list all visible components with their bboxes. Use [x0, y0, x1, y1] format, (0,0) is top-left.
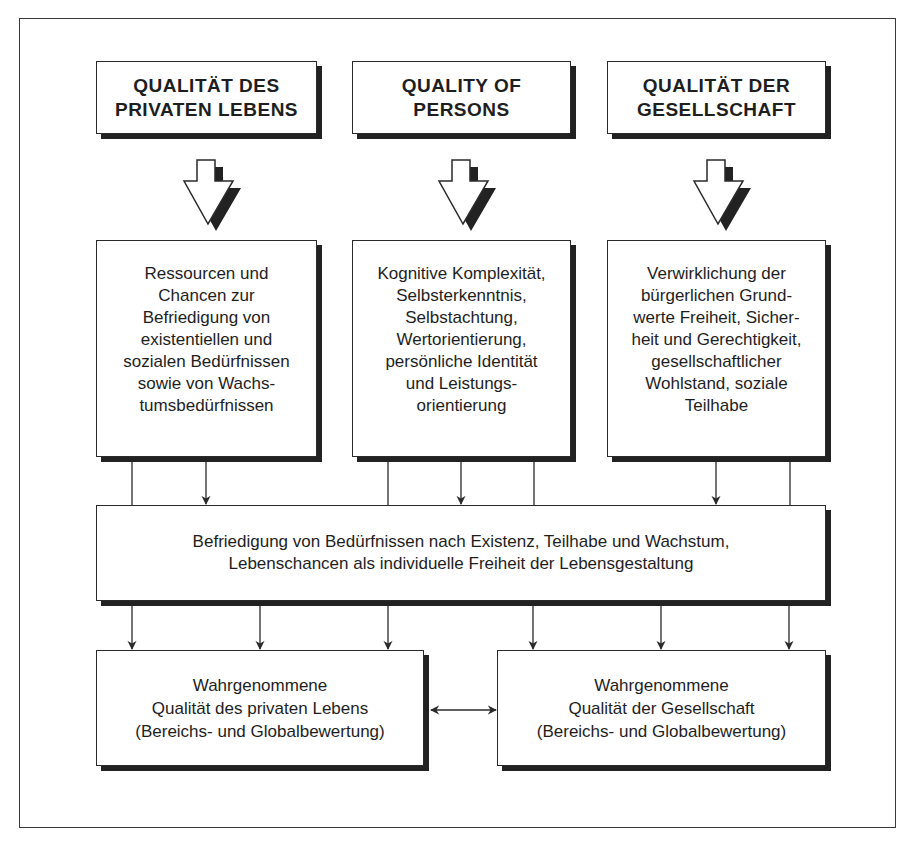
header-label: QUALITY OF PERSONS: [402, 74, 522, 122]
header-box-private-life: QUALITÄT DES PRIVATEN LEBENS: [96, 61, 317, 134]
outcome-text: Wahrgenommene Qualität des privaten Lebe…: [135, 674, 384, 743]
outcome-box-perceived-society: Wahrgenommene Qualität der Gesellschaft …: [497, 650, 826, 766]
synthesis-box: Befriedigung von Bedürfnissen nach Exist…: [96, 505, 826, 601]
header-label: QUALITÄT DER GESELLSCHAFT: [637, 74, 796, 122]
outcome-box-perceived-private-life: Wahrgenommene Qualität des privaten Lebe…: [96, 650, 424, 766]
detail-box-society: Verwirklichung der bürgerlichen Grund- w…: [607, 240, 826, 457]
detail-box-quality-of-persons: Kognitive Komplexität, Selbsterkenntnis,…: [352, 240, 571, 457]
outcome-text: Wahrgenommene Qualität der Gesellschaft …: [537, 674, 786, 743]
header-label: QUALITÄT DES PRIVATEN LEBENS: [115, 74, 298, 122]
detail-text: Ressourcen und Chancen zur Befriedigung …: [123, 263, 289, 417]
detail-text: Verwirklichung der bürgerlichen Grund- w…: [631, 263, 801, 417]
header-box-society: QUALITÄT DER GESELLSCHAFT: [607, 61, 826, 134]
synthesis-text: Befriedigung von Bedürfnissen nach Exist…: [193, 531, 730, 575]
header-box-quality-of-persons: QUALITY OF PERSONS: [352, 61, 571, 134]
detail-text: Kognitive Komplexität, Selbsterkenntnis,…: [377, 263, 545, 417]
detail-box-private-life: Ressourcen und Chancen zur Befriedigung …: [96, 240, 317, 457]
